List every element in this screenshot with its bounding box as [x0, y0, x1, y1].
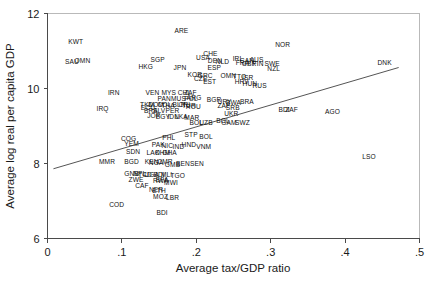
point-label: UKR — [224, 110, 238, 117]
point-label: HKG — [138, 63, 153, 70]
point-label: LSO — [362, 153, 376, 160]
point-label: BFA — [156, 176, 169, 183]
point-label: FIN — [253, 60, 264, 67]
point-label: KWT — [68, 38, 83, 45]
point-label: LBR — [166, 194, 179, 201]
point-label: ESP — [207, 64, 221, 71]
point-label: BRA — [240, 98, 254, 105]
point-label: COD — [109, 201, 124, 208]
y-tick-label: 6 — [33, 233, 39, 245]
x-tick-label: .2 — [192, 246, 201, 258]
x-tick-label: 0 — [44, 246, 50, 258]
point-label: SEN — [190, 160, 204, 167]
point-label: DNK — [377, 59, 392, 66]
point-label: STP — [185, 131, 199, 138]
point-label: ROU — [186, 103, 201, 110]
scatter-plot-figure: KWTSAUOMNARESGPHKGJPNCHEUSADENNLDIRLNORD… — [0, 0, 434, 282]
x-tick-label: .4 — [341, 246, 350, 258]
point-label: ARE — [174, 27, 188, 34]
point-label: BGD — [124, 158, 139, 165]
axis-frame — [48, 14, 420, 239]
point-label: VNM — [196, 143, 211, 150]
point-label: YEM — [124, 140, 139, 147]
point-label: ZAF — [285, 106, 298, 113]
y-axis-title: Average log real per capita GDP — [4, 43, 16, 209]
point-label: JPN — [174, 64, 187, 71]
point-label: MMR — [99, 158, 115, 165]
y-tick-label: 12 — [27, 8, 39, 20]
y-tick-label: 10 — [27, 83, 39, 95]
point-label: RUS — [252, 82, 267, 89]
point-label: IRN — [108, 89, 120, 96]
x-axis-title: Average tax/GDP ratio — [176, 262, 291, 274]
point-label: BDI — [156, 209, 167, 216]
point-label: EST — [203, 78, 216, 85]
point-label: OMN — [75, 57, 91, 64]
point-label: SGP — [150, 56, 165, 63]
point-label: BEN — [176, 160, 190, 167]
point-label: IRQ — [97, 105, 109, 113]
point-label: NIC — [161, 142, 173, 149]
point-label: CAF — [135, 182, 149, 189]
point-label: SWZ — [235, 119, 250, 126]
point-label: NZL — [267, 65, 280, 72]
y-tick-label: 8 — [33, 158, 39, 170]
x-tick-label: .5 — [415, 246, 424, 258]
point-label: ARG — [187, 94, 202, 101]
point-label: UZB — [199, 119, 213, 126]
x-tick-label: .3 — [266, 246, 275, 258]
point-label: NOR — [275, 41, 290, 48]
point-label: AGO — [325, 108, 340, 115]
point-label: BOL — [199, 133, 213, 140]
plot-canvas: KWTSAUOMNARESGPHKGJPNCHEUSADENNLDIRLNORD… — [0, 0, 434, 282]
data-point-labels: KWTSAUOMNARESGPHKGJPNCHEUSADENNLDIRLNORD… — [65, 27, 392, 216]
x-tick-label: .1 — [117, 246, 126, 258]
axis-ticks: 0.1.2.3.4.5681012 — [27, 8, 424, 258]
point-label: GHA — [162, 149, 177, 156]
point-label: SDN — [126, 148, 140, 155]
point-label: PHL — [162, 134, 175, 141]
